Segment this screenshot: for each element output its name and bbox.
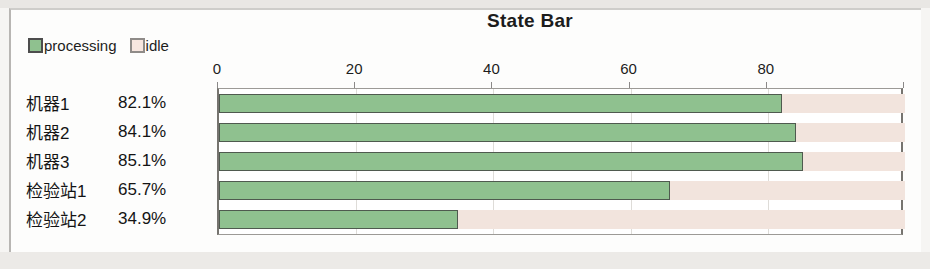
category-label-row: 机器182.1% [26, 88, 206, 117]
x-axis-tick-label: 60 [620, 60, 637, 77]
bar-row [219, 123, 901, 142]
category-percentage-value: 82.1% [118, 93, 166, 113]
x-axis-tick-label: 80 [757, 60, 774, 77]
x-axis-tick-mark [903, 82, 904, 88]
chart-legend: processing idle [28, 38, 169, 53]
category-label-row: 检验站165.7% [26, 175, 206, 204]
legend-item-processing: processing [28, 38, 117, 53]
legend-item-idle: idle [130, 38, 169, 53]
x-axis-tick-label: 40 [483, 60, 500, 77]
bar-segment-processing [219, 181, 670, 200]
bar-segment-processing [219, 152, 803, 171]
bar-row [219, 181, 901, 200]
scan-top-band [0, 0, 930, 8]
category-percentage-value: 34.9% [118, 209, 166, 229]
scan-bottom-band [0, 252, 930, 269]
category-name: 检验站1 [26, 177, 118, 202]
category-name: 机器3 [26, 148, 118, 173]
bar-series-container [219, 89, 901, 234]
legend-swatch-idle-icon [130, 38, 145, 53]
category-percentage-value: 84.1% [118, 122, 166, 142]
category-name: 机器1 [26, 90, 118, 115]
category-label-row: 机器385.1% [26, 146, 206, 175]
x-axis: 020406080 [217, 60, 907, 86]
bar-row [219, 94, 901, 113]
x-axis-tick-label: 0 [213, 60, 221, 77]
legend-swatch-processing-icon [28, 38, 43, 53]
plot-area [217, 88, 903, 235]
bar-row [219, 210, 901, 229]
bar-segment-processing [219, 94, 782, 113]
legend-label-idle: idle [146, 38, 169, 53]
bar-row [219, 152, 901, 171]
category-label-column: 机器182.1%机器284.1%机器385.1%检验站165.7%检验站234.… [26, 88, 206, 233]
legend-label-processing: processing [44, 38, 117, 53]
category-label-row: 机器284.1% [26, 117, 206, 146]
chart-title: State Bar [0, 10, 930, 32]
x-axis-tick-label: 20 [346, 60, 363, 77]
bar-segment-processing [219, 123, 796, 142]
category-name: 检验站2 [26, 206, 118, 231]
category-name: 机器2 [26, 119, 118, 144]
bar-segment-processing [219, 210, 458, 229]
category-percentage-value: 65.7% [118, 180, 166, 200]
category-label-row: 检验站234.9% [26, 204, 206, 233]
category-percentage-value: 85.1% [118, 151, 166, 171]
